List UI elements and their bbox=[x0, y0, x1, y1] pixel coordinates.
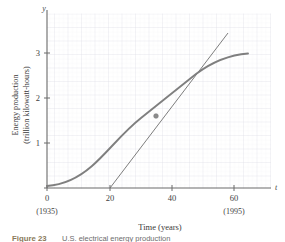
y-tick-label-1: 1 bbox=[36, 138, 40, 148]
y-axis-symbol: y bbox=[41, 4, 46, 13]
caption-figure-number: Figure 23 bbox=[12, 234, 47, 242]
x-tick-label-40: 40 bbox=[168, 193, 177, 203]
x-axis-title: Time (years) bbox=[138, 222, 182, 232]
y-tick-label-2: 2 bbox=[36, 93, 40, 103]
y-axis-title-line2: (trillion kilowatt-hours) bbox=[22, 66, 31, 144]
x-axis-symbol: t bbox=[275, 183, 278, 192]
inflection-point-marker bbox=[154, 114, 159, 119]
year-annotation-right: (1995) bbox=[223, 207, 245, 216]
figure-container: y t 1 2 3 0 20 40 60 (1935) (1995) Time … bbox=[0, 0, 285, 242]
x-tick-label-0: 0 bbox=[45, 193, 49, 203]
y-axis-title-line1: Energy production bbox=[11, 74, 20, 135]
y-axis-title-group: Energy production (trillion kilowatt-hou… bbox=[11, 66, 31, 144]
energy-production-chart: y t 1 2 3 0 20 40 60 (1935) (1995) Time … bbox=[0, 0, 285, 242]
figure-caption: Figure 23 U.S. electrical energy product… bbox=[12, 234, 170, 242]
y-tick-label-3: 3 bbox=[36, 48, 40, 58]
year-annotation-left: (1935) bbox=[36, 207, 58, 216]
x-tick-label-20: 20 bbox=[106, 193, 115, 203]
x-tick-label-60: 60 bbox=[230, 193, 239, 203]
caption-text: U.S. electrical energy production bbox=[62, 234, 170, 242]
plot-grid bbox=[47, 14, 271, 189]
